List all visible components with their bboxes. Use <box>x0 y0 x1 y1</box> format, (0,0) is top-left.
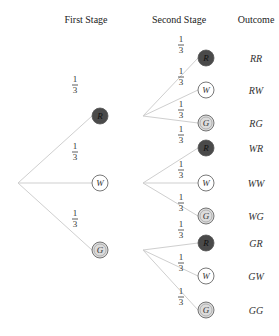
node-letter: R <box>202 238 209 248</box>
second-stage-GW-probability-label: 13 <box>178 252 184 273</box>
node-second-stage-GG: G <box>198 302 214 318</box>
outcome-RW: RW <box>248 85 265 96</box>
node-letter: G <box>97 245 104 255</box>
fraction-denominator: 3 <box>73 152 78 162</box>
outcome-GR: GR <box>249 238 262 249</box>
fraction-denominator: 3 <box>179 297 184 307</box>
outcome-GW: GW <box>248 271 265 282</box>
fraction-denominator: 3 <box>179 110 184 120</box>
branch-second-stage-GR <box>143 243 198 250</box>
fraction-numerator: 1 <box>179 219 184 229</box>
outcome-RR: RR <box>249 53 262 64</box>
fraction-numerator: 1 <box>73 74 78 84</box>
outcome-WW: WW <box>248 178 266 189</box>
fraction-numerator: 1 <box>73 141 78 151</box>
fraction-numerator: 1 <box>179 286 184 296</box>
fraction-numerator: 1 <box>179 34 184 44</box>
node-second-stage-WR: R <box>198 140 214 156</box>
nodes: RWGRWGRWGRWG <box>92 50 214 318</box>
header-second-stage: Second Stage <box>152 14 207 25</box>
second-stage-WG-probability-label: 13 <box>178 192 184 213</box>
second-stage-RG-probability-label: 13 <box>178 99 184 120</box>
node-letter: R <box>202 53 209 63</box>
node-first-stage-R: R <box>92 108 108 124</box>
branch-second-stage-GW <box>143 250 198 276</box>
fraction-numerator: 1 <box>179 124 184 134</box>
node-second-stage-RG: G <box>198 115 214 131</box>
fraction-numerator: 1 <box>73 208 78 218</box>
fraction-denominator: 3 <box>73 85 78 95</box>
fraction-denominator: 3 <box>73 219 78 229</box>
node-letter: R <box>96 111 103 121</box>
second-stage-RW-probability-label: 13 <box>178 66 184 87</box>
node-letter: G <box>203 305 210 315</box>
header-first-stage: First Stage <box>64 14 108 25</box>
fraction-denominator: 3 <box>179 45 184 55</box>
probability-labels: 131313131313131313131313 <box>72 34 184 307</box>
branch-first-stage-G <box>18 183 92 250</box>
second-stage-WW-probability-label: 13 <box>178 159 184 180</box>
outcome-RG: RG <box>248 118 262 129</box>
node-second-stage-RR: R <box>198 50 214 66</box>
header-outcome: Outcome <box>238 14 275 25</box>
node-second-stage-WW: W <box>198 175 214 191</box>
fraction-denominator: 3 <box>179 170 184 180</box>
fraction-numerator: 1 <box>179 66 184 76</box>
branch-second-stage-GG <box>143 250 198 310</box>
branch-second-stage-RW <box>143 90 198 116</box>
second-stage-RR-probability-label: 13 <box>178 34 184 55</box>
fraction-numerator: 1 <box>179 192 184 202</box>
fraction-denominator: 3 <box>179 135 184 145</box>
first-stage-G-probability-label: 13 <box>72 208 78 229</box>
node-letter: G <box>203 118 210 128</box>
second-stage-GG-probability-label: 13 <box>178 286 184 307</box>
fraction-denominator: 3 <box>179 203 184 213</box>
second-stage-GR-probability-label: 13 <box>178 219 184 240</box>
branch-second-stage-WR <box>143 148 198 183</box>
first-stage-W-probability-label: 13 <box>72 141 78 162</box>
node-second-stage-WG: G <box>198 208 214 224</box>
branch-second-stage-RR <box>143 58 198 116</box>
fraction-numerator: 1 <box>179 252 184 262</box>
branch-second-stage-WG <box>143 183 198 216</box>
second-stage-WR-probability-label: 13 <box>178 124 184 145</box>
branch-first-stage-R <box>18 116 92 183</box>
node-first-stage-G: G <box>92 242 108 258</box>
node-letter: G <box>203 211 210 221</box>
outcome-WG: WG <box>248 211 264 222</box>
first-stage-R-probability-label: 13 <box>72 74 78 95</box>
node-first-stage-W: W <box>92 175 108 191</box>
node-second-stage-GW: W <box>198 268 214 284</box>
outcome-GG: GG <box>249 305 263 316</box>
fraction-denominator: 3 <box>179 230 184 240</box>
probability-tree-diagram: First Stage Second Stage Outcome 1313131… <box>0 0 279 336</box>
node-second-stage-GR: R <box>198 235 214 251</box>
node-letter: R <box>202 143 209 153</box>
fraction-denominator: 3 <box>179 77 184 87</box>
outcome-WR: WR <box>249 143 263 154</box>
fraction-numerator: 1 <box>179 99 184 109</box>
outcome-labels: RRRWRGWRWWWGGRGWGG <box>248 53 266 316</box>
fraction-numerator: 1 <box>179 159 184 169</box>
branch-second-stage-RG <box>143 116 198 123</box>
fraction-denominator: 3 <box>179 263 184 273</box>
node-second-stage-RW: W <box>198 82 214 98</box>
